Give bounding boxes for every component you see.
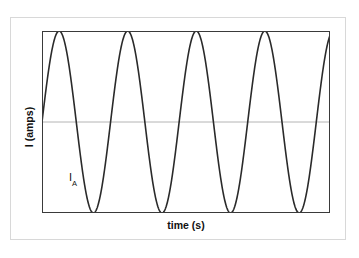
x-axis-label: time (s): [42, 219, 330, 231]
y-axis-label: I (amps): [21, 90, 37, 164]
plot-area-frame: [42, 31, 330, 213]
figure-root: I (amps) time (s) IA: [0, 0, 359, 258]
y-axis-label-text: I (amps): [23, 107, 35, 147]
curve-label-subscript: A: [72, 179, 77, 188]
curve-label-ia: IA: [69, 172, 77, 186]
